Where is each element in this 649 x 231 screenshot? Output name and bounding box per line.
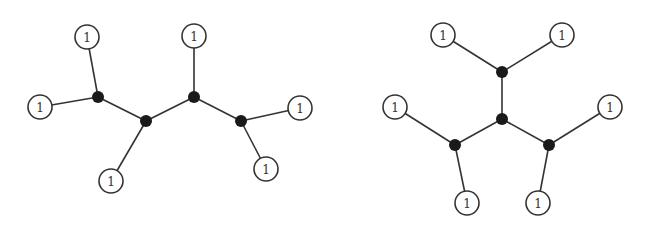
leaf-node: 1 <box>455 191 479 215</box>
leaf-node: 1 <box>182 24 206 48</box>
internal-node <box>92 91 104 103</box>
leaf-node: 1 <box>99 169 123 193</box>
leaf-node: 1 <box>550 23 574 47</box>
internal-node <box>188 91 200 103</box>
leaf-node: 1 <box>75 25 99 49</box>
edge <box>98 97 146 121</box>
internal-node <box>543 139 555 151</box>
edge <box>194 97 241 121</box>
internal-node <box>235 115 247 127</box>
internal-node <box>496 66 508 78</box>
leaf-node: 1 <box>254 157 278 181</box>
internal-node <box>449 139 461 151</box>
leaf-label: 1 <box>296 102 304 116</box>
leaf-label: 1 <box>439 29 447 43</box>
leaf-node: 1 <box>383 95 407 119</box>
leaf-label: 1 <box>190 30 198 44</box>
leaf-node: 1 <box>526 191 550 215</box>
nodes-layer: 111111111111 <box>28 23 622 215</box>
leaf-label: 1 <box>558 29 566 43</box>
leaf-node: 1 <box>431 23 455 47</box>
leaf-label: 1 <box>262 163 270 177</box>
leaf-label: 1 <box>391 101 399 115</box>
leaf-label: 1 <box>606 101 614 115</box>
edge <box>146 97 194 121</box>
internal-node <box>140 115 152 127</box>
leaf-label: 1 <box>36 101 44 115</box>
edge <box>502 119 549 145</box>
edges-layer <box>40 35 610 203</box>
leaf-node: 1 <box>28 95 52 119</box>
leaf-label: 1 <box>534 197 542 211</box>
leaf-node: 1 <box>598 95 622 119</box>
edge <box>455 119 502 145</box>
leaf-label: 1 <box>463 197 471 211</box>
internal-node <box>496 113 508 125</box>
leaf-node: 1 <box>288 96 312 120</box>
right-tree: 111111 <box>383 23 622 215</box>
leaf-label: 1 <box>83 31 91 45</box>
diagram-canvas: 111111111111 <box>0 0 649 231</box>
leaf-label: 1 <box>107 175 115 189</box>
